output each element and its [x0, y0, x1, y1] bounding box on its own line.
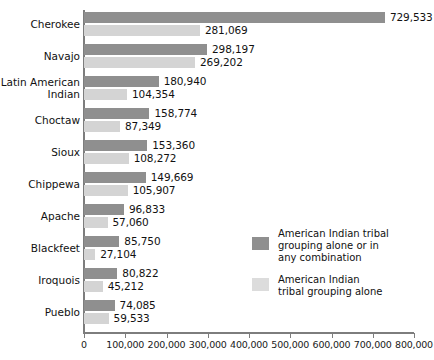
bar-value-label: 59,533: [114, 312, 150, 324]
bar: [84, 44, 207, 55]
bar-value-label: 269,202: [200, 56, 243, 68]
x-axis-tick-label: 300,000: [189, 339, 227, 350]
bar-value-label: 105,907: [133, 184, 176, 196]
bar-group: Navajo298,197269,202: [0, 44, 434, 68]
x-axis-tick-label: 100,000: [106, 339, 144, 350]
bar: [84, 172, 146, 183]
x-axis-tick-label: 500,000: [271, 339, 309, 350]
bar-row: 104,354: [84, 89, 414, 100]
bar-row: 87,349: [84, 121, 414, 132]
category-label: Chippewa: [0, 178, 80, 190]
bar-row: 153,360: [84, 140, 414, 151]
legend-item-alone: American Indian tribal grouping alone: [252, 274, 389, 298]
bar-group: Chippewa149,669105,907: [0, 172, 434, 196]
bar: [84, 140, 147, 151]
bar: [84, 89, 127, 100]
bar-value-label: 149,669: [151, 171, 194, 183]
bar: [84, 313, 109, 324]
legend-swatch-icon: [252, 237, 269, 250]
bar: [84, 204, 124, 215]
bar-row: 57,060: [84, 217, 414, 228]
bar: [84, 121, 120, 132]
x-axis-tick-label: 600,000: [313, 339, 351, 350]
x-axis-tick-label: 200,000: [148, 339, 186, 350]
bar: [84, 185, 128, 196]
bar: [84, 268, 117, 279]
bar: [84, 300, 115, 311]
category-label: Apache: [0, 210, 80, 222]
category-label: Cherokee: [0, 18, 80, 30]
bar-value-label: 87,349: [125, 120, 161, 132]
x-axis-tick: [125, 333, 126, 338]
bar: [84, 281, 103, 292]
bar-value-label: 153,360: [152, 139, 195, 151]
category-label: Sioux: [0, 146, 80, 158]
legend-swatch-icon: [252, 278, 269, 291]
bar-value-label: 74,085: [120, 299, 156, 311]
category-label: Navajo: [0, 50, 80, 62]
x-axis-tick-label: 700,000: [354, 339, 392, 350]
legend-item-label: American Indian tribal grouping alone or…: [278, 228, 389, 265]
bar-group: Choctaw158,77487,349: [0, 108, 434, 132]
x-axis-tick: [373, 333, 374, 338]
bar-value-label: 57,060: [113, 216, 149, 228]
bar-group: Sioux153,360108,272: [0, 140, 434, 164]
category-label: Choctaw: [0, 114, 80, 126]
x-axis-tick: [208, 333, 209, 338]
bar: [84, 57, 195, 68]
x-axis-tick-label: 800,000: [395, 339, 433, 350]
bar-chart: 0100,000200,000300,000400,000500,000600,…: [0, 0, 434, 360]
bar-row: 180,940: [84, 76, 414, 87]
bar: [84, 108, 149, 119]
category-label: Blackfeet: [0, 242, 80, 254]
bar-value-label: 180,940: [164, 75, 207, 87]
bar-value-label: 96,833: [129, 203, 165, 215]
bar-value-label: 158,774: [154, 107, 197, 119]
category-label: Pueblo: [0, 306, 80, 318]
x-axis-tick: [414, 333, 415, 338]
x-axis-tick-label: 400,000: [230, 339, 268, 350]
chart-legend: American Indian tribal grouping alone or…: [252, 228, 389, 307]
bar-value-label: 45,212: [108, 280, 144, 292]
bar: [84, 249, 95, 260]
bar: [84, 25, 200, 36]
x-axis-tick-label: 0: [81, 339, 87, 350]
bar-row: 281,069: [84, 25, 414, 36]
legend-item-label: American Indian tribal grouping alone: [278, 274, 382, 298]
bar-value-label: 281,069: [205, 24, 248, 36]
bar-value-label: 80,822: [122, 267, 158, 279]
bar-value-label: 729,533: [390, 11, 433, 23]
bar-value-label: 298,197: [212, 43, 255, 55]
bar-group: Latin American Indian180,940104,354: [0, 76, 434, 100]
x-axis-tick: [332, 333, 333, 338]
bar-row: 729,533: [84, 12, 414, 23]
bar-row: 269,202: [84, 57, 414, 68]
bar-row: 298,197: [84, 44, 414, 55]
bar-row: 59,533: [84, 313, 414, 324]
category-label: Latin American Indian: [0, 76, 80, 100]
bar-row: 158,774: [84, 108, 414, 119]
x-axis-tick: [167, 333, 168, 338]
bar-row: 108,272: [84, 153, 414, 164]
bar-row: 105,907: [84, 185, 414, 196]
x-axis-tick: [290, 333, 291, 338]
bar-value-label: 85,750: [124, 235, 160, 247]
bar-group: Cherokee729,533281,069: [0, 12, 434, 36]
bar-value-label: 27,104: [100, 248, 136, 260]
bar: [84, 153, 129, 164]
bar-value-label: 108,272: [134, 152, 177, 164]
x-axis-tick: [84, 333, 85, 338]
legend-item-alone-or-combination: American Indian tribal grouping alone or…: [252, 228, 389, 265]
bar: [84, 12, 385, 23]
bar: [84, 76, 159, 87]
bar: [84, 217, 108, 228]
x-axis-tick: [249, 333, 250, 338]
bar-value-label: 104,354: [132, 88, 175, 100]
category-label: Iroquois: [0, 274, 80, 286]
bar-group: Apache96,83357,060: [0, 204, 434, 228]
bar: [84, 236, 119, 247]
bar-row: 96,833: [84, 204, 414, 215]
bar-row: 149,669: [84, 172, 414, 183]
